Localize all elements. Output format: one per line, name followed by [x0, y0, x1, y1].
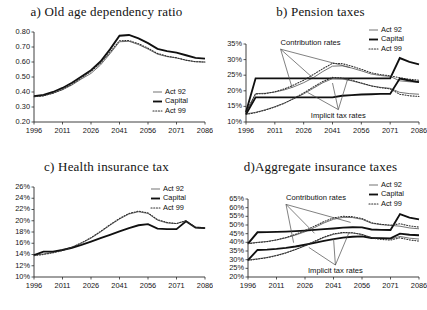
panel-a-old-age-dependency-ratio: a) Old age dependency ratio 0.200.300.40…: [0, 0, 213, 155]
x-tick-label: 2026: [297, 281, 313, 290]
panel-a-plot: 0.200.300.400.500.600.700.80199620112026…: [0, 22, 213, 152]
x-tick-label: 2041: [111, 281, 127, 290]
y-tick-label: 0.20: [16, 117, 30, 126]
x-tick-label: 2086: [411, 126, 427, 135]
annotation-label: Contribution rates: [281, 38, 341, 47]
y-tick-label: 20%: [15, 216, 30, 225]
x-tick-label: 2011: [267, 126, 283, 135]
y-tick-label: 12%: [15, 261, 30, 270]
annotation-leader: [286, 204, 315, 233]
annotation-leader: [334, 238, 336, 265]
annotation-leader: [338, 78, 348, 109]
legend-label: Capital: [381, 34, 404, 43]
x-tick-label: 1996: [26, 281, 42, 290]
y-tick-label: 0.40: [16, 87, 30, 96]
annotation-leader: [286, 204, 351, 222]
y-tick-label: 0.30: [16, 102, 30, 111]
x-tick-label: 1996: [240, 281, 256, 290]
y-tick-label: 16%: [15, 238, 30, 247]
x-tick-label: 2071: [382, 281, 398, 290]
panel-c-health-insurance-tax: c) Health insurance tax 10%12%14%16%18%2…: [0, 155, 213, 310]
y-tick-label: 30%: [229, 255, 244, 264]
y-tick-label: 10%: [227, 117, 242, 126]
y-tick-label: 55%: [229, 211, 244, 220]
y-tick-label: 14%: [15, 249, 30, 258]
y-tick-label: 25%: [227, 70, 242, 79]
y-tick-label: 30%: [227, 55, 242, 64]
legend-label: Act 92: [381, 180, 402, 189]
y-tick-label: 20%: [227, 86, 242, 95]
panel-d-svg: 20%25%30%35%40%45%50%55%60%65%1996201120…: [214, 177, 427, 307]
legend-label: Act 99: [165, 106, 186, 115]
legend-label: Act 92: [163, 184, 184, 193]
x-tick-label: 2086: [197, 281, 213, 290]
series-capital: [34, 221, 205, 255]
x-tick-label: 2026: [83, 281, 99, 290]
y-tick-label: 25%: [229, 263, 244, 272]
x-tick-label: 1996: [238, 126, 254, 135]
annotation-leader: [309, 247, 336, 265]
x-tick-label: 2011: [269, 281, 285, 290]
y-tick-label: 0.80: [16, 27, 30, 36]
annotation-label: Implicit tax rates: [308, 266, 363, 275]
x-tick-label: 1996: [26, 126, 42, 135]
y-tick-label: 45%: [229, 229, 244, 238]
annotation-leader: [308, 92, 339, 109]
y-tick-label: 60%: [229, 203, 244, 212]
panel-a-title: a) Old age dependency ratio: [0, 4, 213, 20]
panel-c-plot: 10%12%14%16%18%20%22%24%26%1996201120262…: [0, 177, 213, 307]
y-tick-label: 50%: [229, 220, 244, 229]
x-tick-label: 2011: [55, 126, 71, 135]
y-tick-label: 35%: [229, 246, 244, 255]
x-tick-label: 2086: [197, 126, 213, 135]
y-tick-label: 15%: [227, 101, 242, 110]
series-act-99: [34, 211, 205, 255]
x-tick-label: 2026: [295, 126, 311, 135]
panel-c-svg: 10%12%14%16%18%20%22%24%26%1996201120262…: [0, 177, 213, 307]
legend-label: Act 92: [381, 25, 402, 34]
x-tick-label: 2041: [325, 281, 341, 290]
legend-label: Capital: [165, 96, 188, 105]
y-tick-label: 65%: [229, 194, 244, 203]
x-tick-label: 2041: [324, 126, 340, 135]
legend-label: Act 99: [381, 44, 402, 53]
panel-b-svg: 10%15%20%25%30%35%1996201120262041205620…: [214, 22, 427, 152]
panel-d-aggregate-insurance-taxes: d)Aggregate insurance taxes 20%25%30%35%…: [214, 155, 427, 310]
legend-label: Capital: [381, 189, 404, 198]
y-tick-label: 22%: [15, 204, 30, 213]
panel-d-plot: 20%25%30%35%40%45%50%55%60%65%1996201120…: [214, 177, 427, 307]
y-tick-label: 20%: [229, 272, 244, 281]
y-tick-label: 18%: [15, 227, 30, 236]
x-tick-label: 2086: [411, 281, 427, 290]
x-tick-label: 2071: [168, 281, 184, 290]
panel-b-pension-taxes: b) Pension taxes 10%15%20%25%30%35%19962…: [214, 0, 427, 155]
panel-c-title: c) Health insurance tax: [0, 159, 213, 175]
y-tick-label: 40%: [229, 237, 244, 246]
panel-a-svg: 0.200.300.400.500.600.700.80199620112026…: [0, 22, 213, 152]
y-tick-label: 26%: [15, 182, 30, 191]
legend-label: Act 99: [381, 199, 402, 208]
annotation-label: Contribution rates: [286, 193, 346, 202]
annotation-label: Implicit tax rates: [311, 111, 366, 120]
y-tick-label: 24%: [15, 193, 30, 202]
x-tick-label: 2056: [140, 126, 156, 135]
x-tick-label: 2041: [111, 126, 127, 135]
legend-label: Act 99: [163, 203, 184, 212]
y-tick-label: 10%: [15, 272, 30, 281]
x-tick-label: 2011: [55, 281, 71, 290]
panel-d-title: d)Aggregate insurance taxes: [214, 159, 427, 175]
x-tick-label: 2071: [168, 126, 184, 135]
series-act-99: [246, 77, 419, 114]
four-panel-figure: a) Old age dependency ratio 0.200.300.40…: [0, 0, 427, 310]
legend-label: Act 92: [165, 87, 186, 96]
x-tick-label: 2056: [140, 281, 156, 290]
x-tick-label: 2056: [353, 126, 369, 135]
panel-b-title: b) Pension taxes: [214, 4, 427, 20]
x-tick-label: 2071: [382, 126, 398, 135]
y-tick-label: 0.50: [16, 72, 30, 81]
y-tick-label: 0.60: [16, 57, 30, 66]
x-tick-label: 2026: [83, 126, 99, 135]
y-tick-label: 35%: [227, 39, 242, 48]
y-tick-label: 0.70: [16, 42, 30, 51]
annotation-leader: [281, 49, 293, 87]
